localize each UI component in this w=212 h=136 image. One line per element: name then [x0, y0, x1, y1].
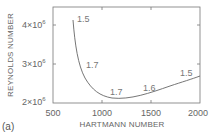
plot-frame [53, 7, 200, 103]
chart: 4×106 3×106 2×106 REYNOLDS NUMBER 500 10… [0, 0, 212, 136]
annotation-4: 1.6 [143, 83, 156, 93]
x-axis-title: HARTMANN NUMBER [79, 120, 164, 129]
y-tick-label-4e6: 4×106 [22, 19, 46, 30]
annotation-3: 1.7 [110, 87, 123, 97]
panel-label: (a) [2, 121, 14, 132]
annotation-5: 1.5 [180, 68, 193, 78]
x-tick-label-500: 500 [45, 108, 60, 118]
y-tick-label-2e6: 2×106 [22, 96, 46, 107]
y-axis: 4×106 3×106 2×106 REYNOLDS NUMBER [6, 13, 200, 107]
x-tick-label-2000: 2000 [188, 108, 208, 118]
x-tick-label-1500: 1500 [141, 108, 161, 118]
y-tick-label-3e6: 3×106 [22, 58, 46, 69]
annotation-2: 1.7 [86, 60, 99, 70]
annotation-1: 1.5 [77, 14, 90, 24]
x-tick-label-1000: 1000 [92, 108, 112, 118]
y-axis-title: REYNOLDS NUMBER [6, 13, 15, 97]
